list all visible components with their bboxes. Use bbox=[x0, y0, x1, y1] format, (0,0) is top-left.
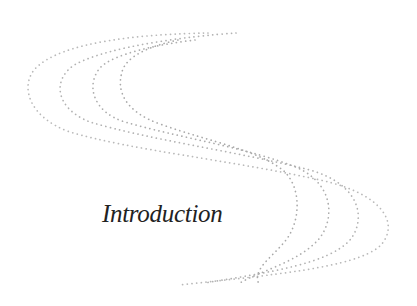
dotted-curve-2 bbox=[60, 33, 358, 283]
document-page: Introduction bbox=[0, 0, 417, 306]
dotted-curve-1 bbox=[28, 33, 388, 285]
section-title: Introduction bbox=[102, 199, 222, 229]
dotted-curve-4 bbox=[120, 40, 297, 286]
dotted-s-curve-ornament-icon bbox=[0, 0, 417, 306]
dotted-curve-3 bbox=[93, 40, 329, 284]
